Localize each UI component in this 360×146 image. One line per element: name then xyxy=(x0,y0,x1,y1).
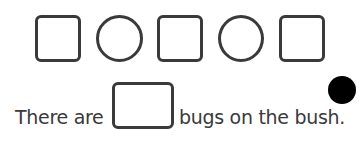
black-dot-marker xyxy=(328,76,356,104)
sentence-before: There are xyxy=(15,106,104,128)
answer-box[interactable] xyxy=(112,82,174,129)
shape-circle-1 xyxy=(96,15,143,62)
shape-square-1 xyxy=(35,15,81,62)
shape-square-2 xyxy=(157,15,203,62)
sentence-after: bugs on the bush. xyxy=(179,106,345,128)
shape-square-3 xyxy=(279,15,325,62)
shape-circle-2 xyxy=(218,15,264,62)
